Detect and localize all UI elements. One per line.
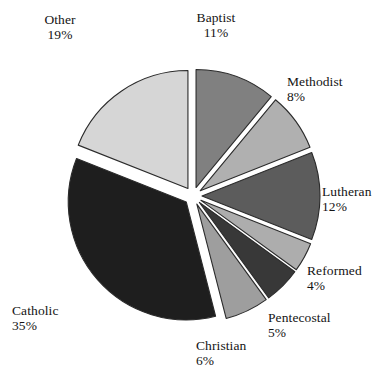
pie-label-name: Reformed [307,263,362,278]
pie-label-name: Baptist [197,10,236,25]
pie-label-percent: 11% [197,25,236,40]
pie-label-methodist: Methodist8% [287,74,343,104]
pie-label-name: Christian [196,338,246,353]
pie-label-percent: 35% [12,318,59,333]
pie-label-pentecostal: Pentecostal5% [268,310,331,340]
pie-chart: Baptist11%Methodist8%Lutheran12%Reformed… [0,0,388,374]
pie-label-percent: 12% [322,199,372,214]
pie-label-name: Lutheran [322,184,372,199]
pie-label-reformed: Reformed4% [307,263,362,293]
pie-slice-catholic[interactable] [68,159,215,320]
pie-label-lutheran: Lutheran12% [322,184,372,214]
pie-label-percent: 8% [287,89,343,104]
pie-label-percent: 5% [268,325,331,340]
pie-label-name: Other [44,12,75,27]
pie-label-catholic: Catholic35% [12,303,59,333]
pie-label-percent: 4% [307,278,362,293]
pie-label-percent: 6% [196,353,246,368]
pie-label-name: Catholic [12,303,59,318]
pie-slices-group [68,70,320,320]
pie-label-baptist: Baptist11% [197,10,236,40]
pie-label-percent: 19% [44,27,75,42]
pie-label-name: Pentecostal [268,310,331,325]
pie-label-other: Other19% [44,12,75,42]
pie-label-christian: Christian6% [196,338,246,368]
pie-label-name: Methodist [287,74,343,89]
